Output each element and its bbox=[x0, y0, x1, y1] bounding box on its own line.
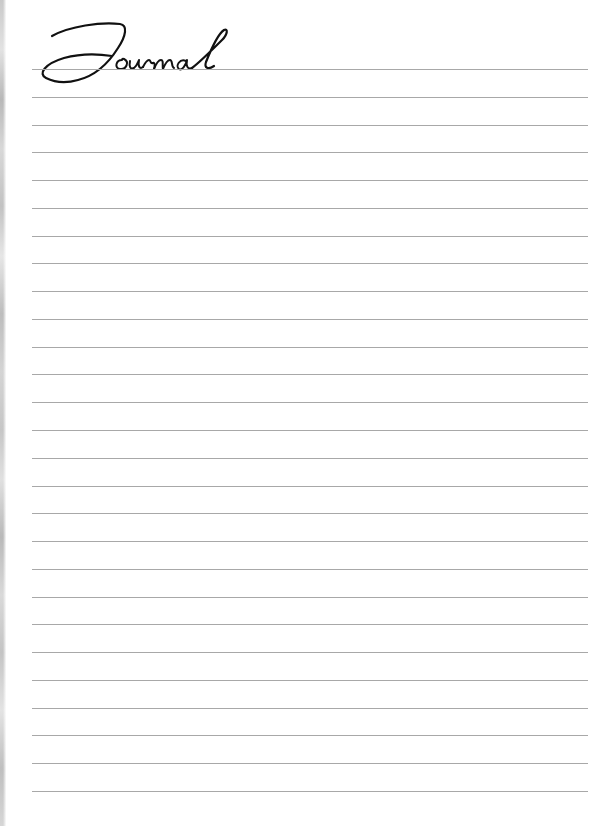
ruled-line bbox=[32, 624, 588, 625]
ruled-line bbox=[32, 402, 588, 403]
ruled-line bbox=[32, 152, 588, 153]
ruled-line bbox=[32, 597, 588, 598]
ruled-line bbox=[32, 319, 588, 320]
ruled-line bbox=[32, 735, 588, 736]
ruled-line bbox=[32, 180, 588, 181]
ruled-line bbox=[32, 97, 588, 98]
ruled-line bbox=[32, 652, 588, 653]
ruled-line bbox=[32, 374, 588, 375]
ruled-line bbox=[32, 708, 588, 709]
ruled-line bbox=[32, 291, 588, 292]
ruled-line bbox=[32, 236, 588, 237]
ruled-lines bbox=[32, 0, 588, 826]
ruled-line bbox=[32, 541, 588, 542]
marble-edge-decoration bbox=[0, 0, 6, 826]
ruled-line bbox=[32, 486, 588, 487]
ruled-line bbox=[32, 791, 588, 792]
ruled-line bbox=[32, 680, 588, 681]
ruled-line bbox=[32, 347, 588, 348]
ruled-line bbox=[32, 69, 588, 70]
ruled-line bbox=[32, 763, 588, 764]
ruled-line bbox=[32, 513, 588, 514]
ruled-line bbox=[32, 208, 588, 209]
ruled-line bbox=[32, 458, 588, 459]
ruled-line bbox=[32, 263, 588, 264]
ruled-line bbox=[32, 569, 588, 570]
ruled-line bbox=[32, 125, 588, 126]
ruled-line bbox=[32, 430, 588, 431]
